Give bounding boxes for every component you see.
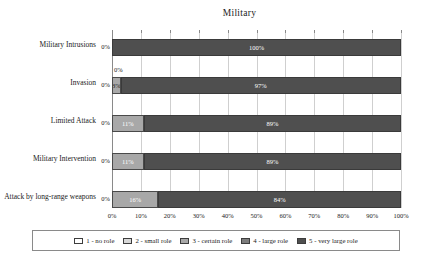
- legend-swatch-icon: [180, 238, 189, 244]
- legend-item[interactable]: 4 - large role: [241, 237, 288, 244]
- axis-tick: [314, 30, 315, 33]
- x-tick-label: 50%: [251, 212, 263, 219]
- row-zero-label: 0%: [101, 195, 110, 202]
- legend-item[interactable]: 3 - certain role: [180, 237, 232, 244]
- gridline: [401, 33, 402, 208]
- leading-zero-labels: 0%0%0%0%0%: [96, 33, 112, 208]
- bar-segment: 84%: [158, 191, 401, 208]
- bar-segment: 100%: [112, 39, 401, 56]
- bar-segment: 16%: [112, 191, 158, 208]
- x-tick-label: 10%: [135, 212, 147, 219]
- x-tick-label: 20%: [164, 212, 176, 219]
- axis-tick: [199, 30, 200, 33]
- legend-label: 3 - certain role: [192, 237, 232, 244]
- plot-area: 100%3%97%0%11%89%11%89%16%84%: [112, 33, 401, 208]
- chart-title: Military: [0, 8, 423, 18]
- segment-outside-label: 0%: [114, 66, 123, 73]
- category-axis-labels: Military IntrusionsInvasionLimited Attac…: [0, 33, 96, 208]
- legend-swatch-icon: [297, 238, 306, 244]
- bar-segment: 97%: [121, 77, 401, 94]
- row-zero-label: 0%: [101, 119, 110, 126]
- bar-row: 11%89%: [112, 153, 401, 170]
- bar-segment: 89%: [144, 153, 401, 170]
- axis-tick: [343, 30, 344, 33]
- legend-label: 5 - very large role: [309, 237, 358, 244]
- bar-segment: 11%: [112, 153, 144, 170]
- axis-tick: [170, 30, 171, 33]
- legend-item[interactable]: 2 - small role: [123, 237, 171, 244]
- row-zero-label: 0%: [101, 43, 110, 50]
- axis-tick: [141, 30, 142, 33]
- bar-row: 100%: [112, 39, 401, 56]
- legend-swatch-icon: [74, 238, 83, 244]
- x-tick-label: 0%: [108, 212, 117, 219]
- category-label: Limited Attack: [0, 116, 96, 125]
- row-zero-label: 0%: [101, 81, 110, 88]
- legend-swatch-icon: [123, 238, 132, 244]
- bar-segment: 89%: [144, 115, 401, 132]
- axis-tick: [372, 30, 373, 33]
- chart-legend: 1 - no role2 - small role3 - certain rol…: [32, 230, 400, 251]
- axis-tick: [401, 30, 402, 33]
- x-tick-label: 70%: [308, 212, 320, 219]
- axis-tick: [228, 30, 229, 33]
- category-label: Military Intervention: [0, 154, 96, 163]
- legend-label: 1 - no role: [86, 237, 114, 244]
- legend-label: 4 - large role: [253, 237, 288, 244]
- value-axis-labels: 0%10%20%30%40%50%60%70%80%90%100%: [112, 208, 401, 224]
- legend-swatch-icon: [241, 238, 250, 244]
- bar-row: 16%84%: [112, 191, 401, 208]
- legend-item[interactable]: 1 - no role: [74, 237, 114, 244]
- legend-item[interactable]: 5 - very large role: [297, 237, 358, 244]
- x-tick-label: 80%: [337, 212, 349, 219]
- legend-label: 2 - small role: [135, 237, 171, 244]
- x-tick-label: 30%: [193, 212, 205, 219]
- bar-segment: 3%: [112, 77, 121, 94]
- category-label: Attack by long-range weapons: [0, 192, 96, 201]
- x-tick-label: 100%: [393, 212, 408, 219]
- axis-tick: [285, 30, 286, 33]
- axis-tick: [257, 30, 258, 33]
- category-label: Military Intrusions: [0, 40, 96, 49]
- category-label: Invasion: [0, 78, 96, 87]
- bar-segment: 11%: [112, 115, 144, 132]
- x-tick-label: 40%: [222, 212, 234, 219]
- bar-row: 11%89%: [112, 115, 401, 132]
- chart-title-text: Military: [223, 8, 257, 18]
- bar-row: 3%97%0%: [112, 77, 401, 94]
- row-zero-label: 0%: [101, 157, 110, 164]
- x-tick-label: 60%: [279, 212, 291, 219]
- stacked-bar-chart: Military Military IntrusionsInvasionLimi…: [0, 0, 423, 264]
- x-tick-label: 90%: [366, 212, 378, 219]
